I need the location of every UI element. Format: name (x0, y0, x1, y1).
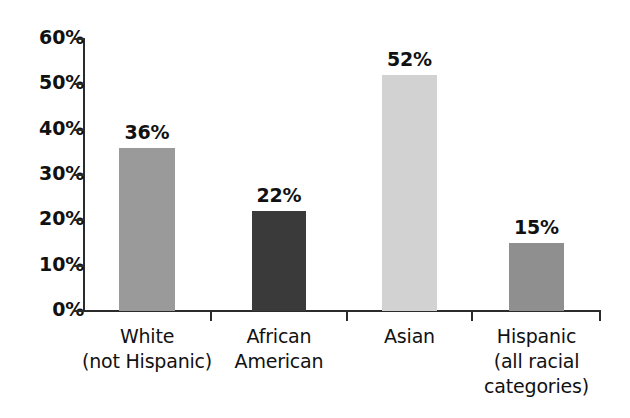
y-axis-tick-mark (73, 219, 84, 221)
y-axis-tick-mark (73, 38, 84, 40)
y-axis-tick: 10% (0, 265, 84, 267)
bar (382, 75, 437, 311)
y-axis-tick: 30% (0, 174, 84, 176)
x-axis-tick-mark (210, 310, 212, 321)
bar (509, 243, 564, 311)
y-axis-tick: 40% (0, 129, 84, 131)
y-axis-tick: 60% (0, 38, 84, 40)
x-axis-category-label-line: (all racial (447, 349, 627, 374)
x-axis-category-label-line: Hispanic (447, 324, 627, 349)
y-axis-tick: 0% (0, 310, 84, 312)
y-axis-tick: 20% (0, 219, 84, 221)
bar-value-label: 15% (497, 218, 577, 237)
y-axis-tick: 50% (0, 83, 84, 85)
bar-value-label: 22% (239, 186, 319, 205)
x-axis-tick-mark (471, 310, 473, 321)
bar (119, 148, 175, 311)
x-axis-category-label-line: categories) (447, 374, 627, 399)
y-axis-tick-mark (73, 83, 84, 85)
y-axis-tick-mark (73, 129, 84, 131)
bar-chart: 0%10%20%30%40%50%60% 36%22%52%15% White(… (0, 0, 630, 418)
y-axis-tick-mark (73, 265, 84, 267)
x-axis-category-label-line: American (189, 349, 369, 374)
x-axis-tick-mark (346, 310, 348, 321)
x-axis-category-label: Hispanic(all racialcategories) (447, 324, 627, 399)
bar (252, 211, 306, 311)
bar-value-label: 36% (107, 123, 187, 142)
bar-value-label: 52% (370, 50, 450, 69)
x-axis-end-tick-mark (599, 310, 601, 321)
y-axis-tick-mark (73, 174, 84, 176)
